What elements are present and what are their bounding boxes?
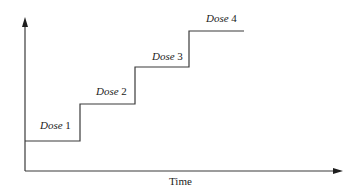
dose-1-label: Dose 1 bbox=[40, 120, 71, 131]
dose-step-diagram bbox=[0, 0, 357, 193]
dose-4-number: 4 bbox=[231, 12, 237, 24]
dose-3-number: 3 bbox=[177, 50, 183, 62]
dose-1-word: Dose bbox=[40, 119, 63, 131]
dose-2-number: 2 bbox=[121, 85, 127, 97]
x-axis-arrow-icon bbox=[333, 168, 343, 174]
dose-2-word: Dose bbox=[96, 85, 119, 97]
dose-4-word: Dose bbox=[206, 12, 229, 24]
dose-3-word: Dose bbox=[152, 50, 175, 62]
dose-1-number: 1 bbox=[65, 119, 71, 131]
x-axis-label: Time bbox=[169, 176, 192, 187]
dose-2-label: Dose 2 bbox=[96, 86, 127, 97]
dose-4-label: Dose 4 bbox=[206, 13, 237, 24]
dose-3-label: Dose 3 bbox=[152, 51, 183, 62]
y-axis-arrow-icon bbox=[22, 17, 28, 27]
